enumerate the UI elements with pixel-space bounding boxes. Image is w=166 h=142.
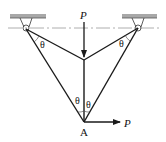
angle-arcs (34, 35, 130, 112)
left-ceiling-support (10, 14, 46, 31)
theta-left-support: θ (40, 39, 45, 50)
right-ceiling-support (122, 14, 157, 31)
node-a-label: A (80, 126, 88, 138)
theta-right-support: θ (119, 38, 124, 49)
load-right-label: P (123, 117, 131, 129)
theta-bottom-right: θ (86, 99, 91, 110)
load-top-label: P (79, 9, 87, 21)
truss-diagram: P P A θ θ θ θ (0, 0, 166, 142)
theta-bottom-left: θ (75, 95, 80, 106)
